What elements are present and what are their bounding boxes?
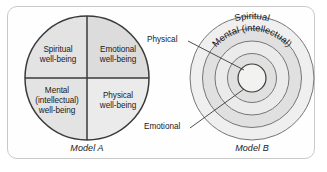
model-a-diagram: [25, 16, 149, 140]
leader-label-emotional: Emotional: [144, 122, 180, 131]
quadrant-label-emotional: Emotional well-being: [91, 45, 145, 65]
quadrant-label-mental: Mental (intellectual) well-being: [29, 86, 85, 117]
caption-model-a: Model A: [52, 143, 122, 153]
model-b-diagram: Spiritual Mental (intellectual): [188, 10, 314, 140]
caption-model-b: Model B: [217, 143, 287, 153]
quadrant-label-physical: Physical well-being: [91, 91, 145, 111]
ring-core: [238, 64, 266, 92]
leader-label-physical: Physical: [147, 35, 178, 44]
figure-root: Spiritual Mental (intellectual) Spiritua…: [0, 0, 327, 172]
quadrant-label-spiritual: Spiritual well-being: [32, 45, 84, 65]
